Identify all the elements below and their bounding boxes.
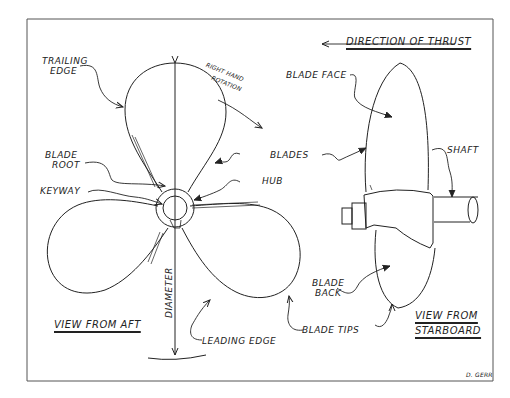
label-hub: Hub: [262, 176, 283, 186]
label-blade-tips: Blade Tips: [302, 325, 359, 335]
propeller-nut: [352, 203, 366, 229]
label-trailing-edge-line2: Edge: [42, 66, 88, 76]
lower-blade-side: [375, 230, 435, 308]
label-leading-edge: Leading Edge: [202, 336, 276, 346]
view-from-starboard-title: View From Starboard: [415, 311, 481, 336]
label-blades: Blades: [270, 150, 309, 160]
label-diameter: Diameter: [164, 267, 174, 318]
label-blade-root-line1: Blade: [45, 150, 80, 160]
label-direction-of-thrust: Direction Of Thrust: [346, 37, 471, 47]
left-blade: [47, 200, 168, 293]
label-blade-back-line2: Back: [312, 288, 344, 298]
label-blade-face: Blade Face: [286, 70, 347, 80]
label-blade-back: Blade Back: [312, 278, 344, 298]
label-blade-root: Blade Root: [45, 150, 80, 170]
label-blade-root-line2: Root: [45, 160, 80, 170]
label-shaft: Shaft: [447, 145, 479, 155]
shaft-end: [468, 197, 478, 223]
view-from-starboard-line2: Starboard: [415, 326, 481, 336]
diameter-arc: [148, 355, 206, 359]
label-trailing-edge: Trailing Edge: [42, 56, 88, 76]
shaft: [434, 197, 478, 222]
signature: D. Gerr: [466, 370, 493, 380]
label-trailing-edge-line1: Trailing: [42, 56, 88, 66]
right-blade: [182, 204, 300, 298]
propeller-diagram: Trailing Edge Right Hand Rotation Blade …: [0, 0, 510, 398]
label-keyway: Keyway: [40, 186, 80, 196]
label-blade-back-line1: Blade: [312, 278, 344, 288]
starboard-view-propeller: [342, 63, 478, 308]
view-from-starboard-line1: View From: [415, 311, 481, 321]
side-hub: [364, 190, 433, 248]
upper-blade-side: [365, 63, 428, 192]
aft-leader-lines: [80, 65, 303, 340]
view-from-aft-title: View From Aft: [54, 320, 141, 330]
